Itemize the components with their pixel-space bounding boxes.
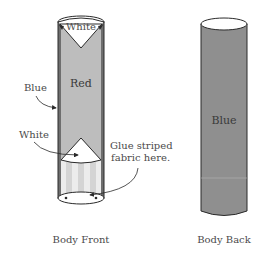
diagram-canvas: White Red Blue White Glue striped fabric… <box>0 0 263 255</box>
front-top-white-label: White <box>66 21 96 32</box>
back-blue-label: Blue <box>211 114 236 127</box>
blue-callout-arrow <box>36 96 56 108</box>
glue-note-line1: Glue striped <box>110 140 173 151</box>
front-lower-white-label: White <box>19 129 49 140</box>
glue-note-line2: fabric here. <box>111 152 170 163</box>
body-front-caption: Body Front <box>53 234 110 245</box>
tube-diagram: White Red Blue White Glue striped fabric… <box>0 0 263 255</box>
body-front: White Red Blue White Glue striped fabric… <box>19 16 173 245</box>
body-back-caption: Body Back <box>197 234 252 245</box>
front-bottom-dot-left <box>65 197 68 200</box>
front-bottom-dot-right <box>95 197 98 200</box>
front-blue-label: Blue <box>24 82 47 93</box>
front-red-label: Red <box>70 77 92 90</box>
body-back: Blue Body Back <box>197 18 252 245</box>
back-top-cap <box>201 18 247 30</box>
